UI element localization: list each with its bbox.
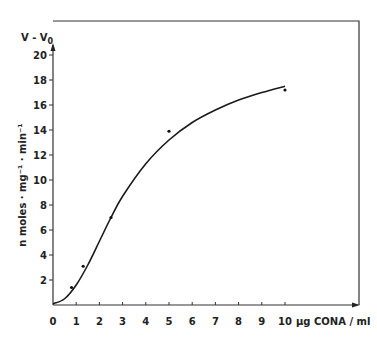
y-axis-header: V - V0 [21, 32, 54, 46]
y-tick-label: 16 [33, 100, 47, 111]
x-tick-label: 3 [119, 316, 126, 327]
fitted-curve [53, 86, 285, 304]
y-tick-label: 14 [33, 125, 47, 136]
x-tick-label: 7 [212, 316, 219, 327]
chart: 2468101214161820 012345678910 V - V0 n m… [0, 0, 377, 337]
x-axis-label: µg CONA / ml [296, 316, 370, 327]
y-tick-label: 8 [40, 200, 47, 211]
x-ticks: 012345678910 [50, 302, 292, 327]
x-tick-label: 4 [142, 316, 149, 327]
y-tick-label: 4 [40, 250, 47, 261]
chart-frame [53, 21, 359, 305]
y-axis-label: n moles · mg⁻¹ · min⁻¹ [17, 123, 28, 246]
y-tick-label: 10 [33, 175, 47, 186]
x-tick-label: 6 [189, 316, 196, 327]
x-tick-label: 5 [166, 316, 173, 327]
y-tick-label: 20 [33, 50, 47, 61]
y-tick-label: 18 [33, 75, 47, 86]
y-tick-label: 6 [40, 225, 47, 236]
x-tick-label: 2 [96, 316, 103, 327]
y-ticks: 2468101214161820 [33, 50, 53, 286]
data-point [283, 88, 286, 91]
y-tick-label: 12 [33, 150, 47, 161]
x-tick-label: 9 [258, 316, 265, 327]
x-tick-label: 10 [278, 316, 292, 327]
x-tick-label: 1 [73, 316, 80, 327]
data-point [109, 216, 112, 219]
x-tick-label: 0 [50, 316, 57, 327]
data-point [82, 265, 85, 268]
data-point [167, 130, 170, 133]
y-tick-label: 2 [40, 275, 47, 286]
data-points [70, 88, 287, 289]
data-point [70, 286, 73, 289]
x-tick-label: 8 [235, 316, 242, 327]
